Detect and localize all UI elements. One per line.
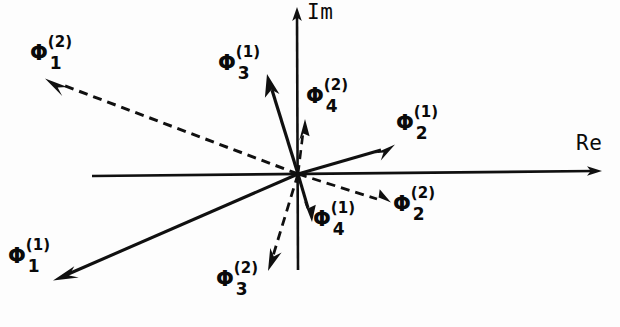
phi-glyph: Φ xyxy=(313,207,331,231)
vector-phi-2-1-arrowhead xyxy=(375,145,395,161)
phasor-diagram: Im Re Φ(1)1 Φ(2)1 Φ(1)2 Φ(2)2 Φ(1)3 Φ(2)… xyxy=(0,0,620,327)
vector-phi-2-2-shaft xyxy=(298,174,377,199)
vector-phi-2-1-shaft xyxy=(298,150,381,174)
vector-phi-4-2-arrowhead xyxy=(299,119,309,141)
phi-subscript: 4 xyxy=(326,99,338,115)
phi-indices: (2)4 xyxy=(324,84,348,113)
vector-phi-1-1-shaft xyxy=(66,174,298,275)
vector-label-phi-4-1: Φ(1)4 xyxy=(313,206,355,235)
phi-indices: (1)2 xyxy=(414,111,438,140)
vector-phi-2-1 xyxy=(298,145,395,175)
phi-glyph: Φ xyxy=(218,51,236,75)
phi-glyph: Φ xyxy=(216,267,234,291)
phi-superscript: (2) xyxy=(324,79,348,93)
vector-label-phi-4-2: Φ(2)4 xyxy=(306,83,348,112)
im-axis-line xyxy=(297,14,298,270)
phi-subscript: 2 xyxy=(416,126,428,142)
phi-glyph: Φ xyxy=(393,192,411,216)
vector-phi-1-2-arrowhead xyxy=(45,79,67,96)
vector-phi-1-2 xyxy=(45,79,298,175)
re-axis-line xyxy=(92,171,594,176)
phi-superscript: (1) xyxy=(236,46,260,60)
phi-subscript: 3 xyxy=(238,66,250,82)
vector-phi-2-2-arrowhead xyxy=(371,189,391,202)
vector-label-phi-3-2: Φ(2)3 xyxy=(216,266,258,295)
phi-indices: (1)1 xyxy=(26,244,50,273)
vector-phi-4-2 xyxy=(298,119,310,174)
vector-canvas xyxy=(0,0,620,327)
phi-superscript: (2) xyxy=(411,187,435,201)
phi-glyph: Φ xyxy=(30,41,48,65)
vector-phi-1-1 xyxy=(53,174,298,281)
vector-phi-1-1-arrowhead xyxy=(53,266,79,280)
phi-subscript: 2 xyxy=(413,207,425,223)
vector-label-phi-2-1: Φ(1)2 xyxy=(396,110,438,139)
vector-phi-3-1-shaft xyxy=(272,90,298,174)
phi-glyph: Φ xyxy=(306,84,324,108)
vector-label-phi-2-2: Φ(2)2 xyxy=(393,191,435,220)
phi-indices: (2)1 xyxy=(48,41,72,70)
vector-phi-3-1 xyxy=(265,74,298,174)
vector-phi-4-1-shaft xyxy=(298,174,308,208)
re-axis-label: Re xyxy=(576,133,602,154)
phi-subscript: 1 xyxy=(50,56,62,72)
phi-glyph: Φ xyxy=(8,244,26,268)
phi-subscript: 1 xyxy=(28,259,40,275)
phi-glyph: Φ xyxy=(396,111,414,135)
phi-indices: (2)3 xyxy=(234,267,258,296)
re-axis xyxy=(92,166,602,176)
phi-superscript: (1) xyxy=(414,106,438,120)
vector-label-phi-1-2: Φ(2)1 xyxy=(30,40,72,69)
vector-phi-3-2 xyxy=(268,174,298,271)
phi-indices: (2)2 xyxy=(411,192,435,221)
phi-superscript: (1) xyxy=(26,239,50,253)
phi-superscript: (2) xyxy=(234,262,258,276)
vector-phi-1-2-shaft xyxy=(60,84,298,174)
phi-superscript: (2) xyxy=(48,36,72,50)
phi-indices: (1)3 xyxy=(236,51,260,80)
phi-subscript: 3 xyxy=(236,282,248,298)
vector-label-phi-3-1: Φ(1)3 xyxy=(218,50,260,79)
phi-indices: (1)4 xyxy=(331,207,355,236)
im-axis-label: Im xyxy=(307,2,333,23)
vector-label-phi-1-1: Φ(1)1 xyxy=(8,243,50,272)
phi-subscript: 4 xyxy=(333,222,345,238)
vector-phi-3-2-shaft xyxy=(273,174,298,256)
phi-superscript: (1) xyxy=(331,202,355,216)
